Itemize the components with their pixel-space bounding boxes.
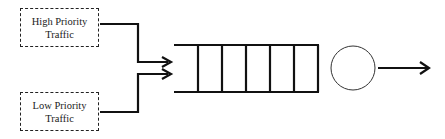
low-priority-connector <box>100 74 168 112</box>
diagram-canvas <box>0 0 445 139</box>
queue-buffer <box>174 45 319 92</box>
high-priority-connector <box>100 24 168 62</box>
server-circle <box>331 46 375 90</box>
